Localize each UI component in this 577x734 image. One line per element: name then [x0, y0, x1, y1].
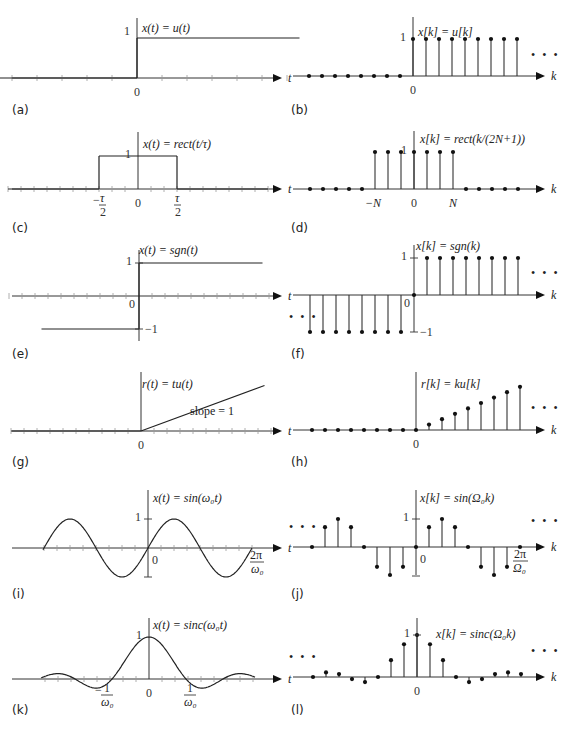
x-tick-label: 0 — [413, 437, 419, 451]
x-axis-label: k — [551, 69, 557, 83]
axis-arrow-icon — [273, 185, 282, 193]
stem-dot — [386, 150, 390, 154]
stem-dot — [347, 330, 351, 334]
formula-label: r(t) = tu(t) — [142, 377, 193, 391]
x-axis-label: t — [288, 424, 292, 438]
stem-dot — [440, 517, 444, 521]
ellipsis: • • • — [531, 514, 560, 528]
stem-dot — [347, 187, 351, 191]
stem-dot — [402, 642, 406, 646]
x-tick-label: 0 — [152, 553, 158, 567]
stem-dot — [359, 74, 363, 78]
axis-arrow-icon — [536, 673, 545, 681]
stem-dot — [453, 525, 457, 529]
stem-dot — [399, 330, 403, 334]
stem-dot — [373, 150, 377, 154]
panel-e: (e)tx(t) = sgn(t)1−10 — [9, 243, 292, 361]
panel-label: (a) — [12, 103, 29, 117]
x-axis-label: k — [551, 540, 557, 554]
y-tick-label: 1 — [400, 30, 406, 44]
stem-dot — [505, 390, 509, 394]
stem-dot — [480, 677, 484, 681]
stem-dot — [412, 150, 416, 154]
x-tick-label: 0 — [138, 438, 144, 452]
stem-dot — [336, 428, 340, 432]
y-tick-label: −1 — [420, 325, 433, 339]
y-tick-label: 1 — [126, 254, 132, 268]
stem-dot — [505, 565, 509, 569]
x-tick-label: 0 — [414, 684, 420, 698]
axis-arrow-icon — [273, 74, 282, 82]
stem-dot — [466, 406, 470, 410]
stem-dot — [438, 256, 442, 260]
axis-arrow-icon — [536, 185, 545, 193]
stem-dot — [321, 330, 325, 334]
stem-dot — [349, 428, 353, 432]
stem-dot — [414, 428, 418, 432]
stem-dot — [346, 74, 350, 78]
x-tick-label: N — [448, 196, 458, 210]
stem-dot — [412, 293, 416, 297]
panel-f: (f)k• • •• • •x[k] = sgn(k)1−10 — [289, 239, 560, 361]
stem-dot — [453, 412, 457, 416]
panel-label: (d) — [291, 221, 308, 235]
stem-dot — [502, 37, 506, 41]
stem-dot — [503, 187, 507, 191]
stem-dot — [324, 670, 328, 674]
ellipsis: • • • — [531, 48, 560, 62]
stem-dot — [490, 256, 494, 260]
stem-dot — [515, 37, 519, 41]
panel-label: (k) — [12, 703, 28, 717]
stem-dot — [425, 150, 429, 154]
stem-dot — [467, 680, 471, 684]
axis-arrow-icon — [273, 675, 282, 683]
stem-dot — [401, 565, 405, 569]
panel-b: (b)k• • •x[k] = u[k]10 — [291, 17, 560, 117]
stem-dot — [428, 642, 432, 646]
panel-a: (a)tx(t) = u(t)10 — [0, 18, 300, 117]
stem-dot — [363, 680, 367, 684]
stem-dot — [464, 256, 468, 260]
x-tick-label: τ — [175, 191, 180, 205]
stem-dot — [503, 256, 507, 260]
formula-label: x[k] = u[k] — [417, 25, 473, 39]
panel-label: (g) — [12, 455, 29, 469]
axis-arrow-icon — [273, 544, 282, 552]
stem-dot — [490, 187, 494, 191]
stem-dot — [479, 565, 483, 569]
stem-dot — [320, 74, 324, 78]
x-tick-label: 0 — [410, 83, 416, 97]
stem-dot — [373, 330, 377, 334]
stem-dot — [360, 330, 364, 334]
panel-k: (k)tx(t) = sinc(ω₀t)10−1ω₀1ω₀ — [12, 618, 292, 717]
axis-arrow-icon — [536, 543, 545, 551]
axis-arrow-icon — [273, 292, 282, 300]
stem-dot — [479, 401, 483, 405]
stem-dot — [492, 396, 496, 400]
formula-label: x(t) = sinc(ω₀t) — [152, 618, 227, 632]
panel-label: (h) — [291, 455, 308, 469]
stem-dot — [464, 187, 468, 191]
axis-arrow-icon — [536, 426, 545, 434]
stem-dot — [388, 428, 392, 432]
stem-dot — [466, 545, 470, 549]
stem-dot — [323, 428, 327, 432]
formula-label: x[k] = sinc(Ω₀k) — [435, 627, 516, 641]
x-axis-label: k — [551, 670, 557, 684]
ellipsis: • • • — [531, 644, 560, 658]
stem-dot — [441, 658, 445, 662]
stem-dot — [310, 428, 314, 432]
stem-dot — [372, 74, 376, 78]
formula-label: x[k] = sgn(k) — [415, 239, 480, 253]
stem-dot — [506, 670, 510, 674]
y-tick-label: 1 — [136, 628, 142, 642]
x-tick-label: 2 — [175, 205, 181, 219]
formula-label: x(t) = rect(t/τ) — [142, 137, 211, 151]
x-axis-label: t — [288, 672, 292, 686]
axis-arrow-icon — [536, 291, 545, 299]
stem-dot — [411, 37, 415, 41]
axis-arrow-icon — [273, 427, 282, 435]
x-tick-label: 0 — [134, 85, 140, 99]
stem-dot — [336, 517, 340, 521]
x-tick-label: 0 — [129, 297, 135, 311]
